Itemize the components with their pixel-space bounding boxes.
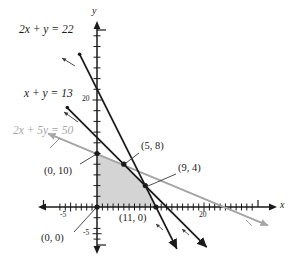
y-axis-label: y [92,6,96,16]
leader-line-lower-right-13 [182,229,189,235]
vertex-label-11-0: (11, 0) [119,213,147,224]
line-13-upper-endpoint-dot [66,106,70,110]
vertex-point-5-8 [121,162,126,167]
y-tick-label-neg5: -5 [83,229,89,237]
equation-label-2x-plus-y-22: 2x + y = 22 [19,24,73,36]
feasible-region-shading [97,154,156,208]
line-x-plus-y-equals-13 [68,108,207,247]
leader-line-lower-right-22 [156,224,163,230]
leader-line-9-4 [148,174,176,186]
vertex-point-9-4 [143,183,148,188]
leader-line-lower-right-50 [246,220,252,226]
x-tick-label-neg5: -5 [60,211,66,219]
leader-line-22 [62,58,75,66]
y-tick-label-20: 20 [82,95,90,103]
vertex-label-0-0: (0, 0) [41,233,64,244]
y-axis-arrow-up [94,21,101,29]
leader-line-50 [50,138,60,148]
vertex-label-5-8: (5, 8) [141,141,164,152]
vertex-point-0-0 [94,204,99,209]
line-22-upper-endpoint-dot [78,53,82,57]
x-axis-label: x [280,200,284,210]
vertex-label-9-4: (9, 4) [178,163,201,174]
equation-label-x-plus-y-13: x + y = 13 [24,88,73,100]
graph-figure: 2x + y = 22 x + y = 13 2x + 5y = 50 (5, … [0,0,295,267]
vertex-label-0-10: (0, 10) [44,166,72,177]
equation-label-2x-plus-5y-50: 2x + 5y = 50 [13,125,73,137]
x-tick-label-20: 20 [199,211,207,219]
x-axis-arrow-left [38,204,46,211]
vertex-point-11-0 [153,204,158,209]
y-axis-arrow-down [94,246,101,254]
x-axis-arrow-right [269,204,277,211]
leader-line-0-10 [80,155,95,164]
